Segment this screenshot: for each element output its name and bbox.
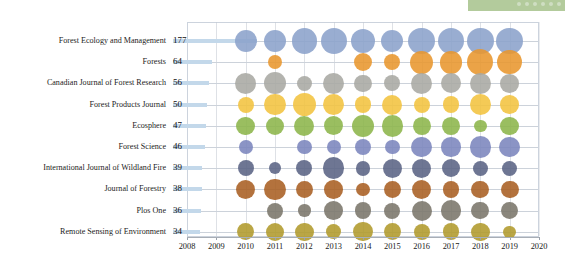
header-banner [468,0,565,11]
bubble [500,95,519,114]
bubble [236,117,255,136]
category-count: 64 [173,57,182,66]
category-count: 36 [173,206,182,215]
bubble [410,51,433,74]
bubble [473,161,488,176]
banner-dot [557,2,561,6]
bubble [474,120,487,133]
bubble [323,94,344,115]
x-axis-label: 2020 [519,243,559,251]
category-count: 39 [173,163,182,172]
bubble [441,137,460,156]
bubble [382,95,402,115]
x-axis-tick [539,237,540,240]
banner-dots [517,2,561,6]
bubble [412,201,432,221]
banner-dot [525,2,529,6]
bubble [412,159,431,178]
bubble [470,136,491,157]
category-label: Forest Ecology and Management [0,37,166,45]
bubble [354,75,372,93]
bubble [264,30,286,52]
banner-dot [533,2,537,6]
bubble [297,140,312,155]
bubble [298,204,311,217]
bubble [292,28,317,53]
bubble [385,140,400,155]
bubble [384,203,400,219]
bubble [239,140,253,154]
bubble [440,51,463,74]
category-label: Journal of Forestry [0,185,166,193]
category-label: Plos One [0,207,166,215]
banner-dot [549,2,553,6]
bubble [238,160,254,176]
bubble [235,30,257,52]
bubble-chart: Forest Ecology and Management177Forests6… [0,0,565,267]
category-count: 38 [173,184,182,193]
bubble [238,97,254,113]
bubble [501,181,519,199]
category-count: 47 [173,121,182,130]
category-label: Ecosphere [0,122,166,130]
category-count: 50 [173,100,182,109]
bubble [268,55,282,69]
bubble [501,202,518,219]
bubble [352,115,374,137]
bubble [383,159,402,178]
bubble [384,181,401,198]
bubble [382,115,403,136]
bubble [356,161,371,176]
x-axis-line [187,237,539,238]
bubble [293,93,316,116]
category-label: Forest Products Journal [0,101,166,109]
bubble [442,117,460,135]
category-count: 56 [173,78,182,87]
bubble [296,181,313,198]
bubble [327,140,341,154]
category-count: 46 [173,142,182,151]
bubble [264,179,285,200]
category-count: 177 [173,36,187,45]
bubble [267,203,283,219]
bubble [502,161,517,176]
category-label: Forest Science [0,143,166,151]
grid-line-vertical [216,22,217,236]
bubble [413,117,431,135]
category-count: 34 [173,227,182,236]
category-label: International Journal of Wildland Fire [0,164,166,172]
bubble [297,76,312,91]
bubble [500,117,519,136]
banner-dot [541,2,545,6]
bubble [324,201,343,220]
bubble [321,28,347,54]
banner-dot [517,2,521,6]
bubble [356,183,370,197]
category-label: Forests [0,58,166,66]
bubble [470,73,491,94]
bubble [443,181,460,198]
category-label: Remote Sensing of Environment [0,228,166,236]
bubble [323,73,344,94]
bubble [500,74,519,93]
grid-line-vertical [539,22,540,236]
bubble [264,94,285,115]
bubble [324,180,343,199]
bubble [414,97,430,113]
category-label: Canadian Journal of Forest Research [0,79,166,87]
